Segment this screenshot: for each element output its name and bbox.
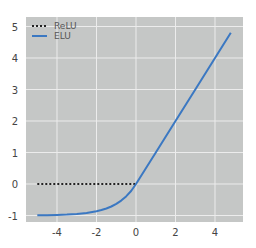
chart: -1012345 -4-2024 ReLUELU (0, 0, 256, 248)
x-tick-label: -2 (92, 227, 102, 238)
x-tick-label: 4 (212, 227, 218, 238)
legend-label-relu: ReLU (54, 21, 77, 31)
y-tick-label: -1 (8, 211, 18, 222)
x-axis-ticks: -4-2024 (52, 227, 218, 238)
y-tick-label: 2 (12, 116, 18, 127)
y-tick-label: 0 (12, 179, 18, 190)
y-tick-label: 3 (12, 85, 18, 96)
x-tick-label: -4 (52, 227, 62, 238)
y-tick-label: 5 (12, 22, 18, 33)
y-tick-label: 1 (12, 148, 18, 159)
plot-area (26, 17, 243, 222)
x-tick-label: 2 (172, 227, 178, 238)
y-tick-label: 4 (12, 53, 18, 64)
y-axis-ticks: -1012345 (8, 22, 18, 222)
x-tick-label: 0 (133, 227, 139, 238)
legend-label-elu: ELU (54, 31, 71, 41)
